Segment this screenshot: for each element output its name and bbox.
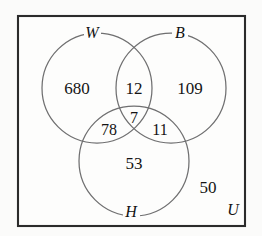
- region-count-b-and-h: 11: [152, 121, 167, 138]
- region-count-h-only: 53: [126, 154, 143, 173]
- region-count-outside-all: 50: [200, 178, 217, 197]
- venn-diagram-canvas: W B H U 680 12 109 78 7 11 53 50: [0, 0, 262, 236]
- set-label-w: W: [85, 24, 100, 41]
- region-count-all-three: 7: [130, 109, 138, 126]
- region-count-b-only: 109: [177, 79, 203, 98]
- venn-diagram-figure: W B H U 680 12 109 78 7 11 53 50: [0, 0, 262, 236]
- region-count-w-only: 680: [64, 79, 90, 98]
- region-count-w-and-h: 78: [101, 121, 117, 138]
- region-count-w-and-b: 12: [126, 79, 143, 98]
- universal-set-label-u: U: [227, 201, 240, 218]
- set-label-h: H: [124, 203, 138, 220]
- set-label-b: B: [175, 24, 185, 41]
